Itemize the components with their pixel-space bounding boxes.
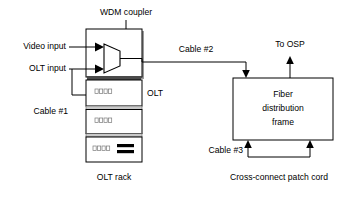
cable-1-route bbox=[72, 69, 86, 95]
shelf-1-port bbox=[100, 89, 103, 94]
rack-top-bar bbox=[87, 76, 141, 80]
shelf-1-port bbox=[104, 89, 107, 94]
fdf-line-1: Fiber bbox=[273, 89, 293, 99]
olt-label: OLT bbox=[147, 88, 164, 98]
shelf-2-port bbox=[104, 118, 107, 123]
cable-1-label: Cable #1 bbox=[34, 106, 69, 116]
shelf-3-black-bar bbox=[117, 150, 134, 153]
rack-shelf-2 bbox=[86, 110, 142, 134]
diagram-canvas: WDM coupler Video input OLT input Cable … bbox=[0, 0, 341, 199]
fdf-line-3: frame bbox=[272, 117, 294, 127]
arrow-down-icon bbox=[242, 70, 250, 78]
video-input-label: Video input bbox=[23, 41, 66, 51]
fdf-line-2: distribution bbox=[262, 103, 304, 113]
olt-rack-label: OLT rack bbox=[97, 172, 132, 182]
shelf-2-port bbox=[109, 118, 112, 123]
cross-connect-patch-cord-label: Cross-connect patch cord bbox=[230, 172, 328, 182]
network-diagram: WDM coupler Video input OLT input Cable … bbox=[0, 0, 341, 199]
shelf-3-port bbox=[98, 146, 101, 151]
shelf-3-port bbox=[107, 146, 110, 151]
to-osp-label: To OSP bbox=[275, 39, 305, 49]
rack-separator-bar bbox=[86, 134, 142, 138]
shelf-3-black-bar bbox=[117, 144, 134, 147]
rack-separator-bar bbox=[86, 106, 142, 110]
arrow-up-icon bbox=[244, 140, 252, 148]
rack-shelf-1 bbox=[86, 80, 142, 106]
shelf-1-port bbox=[95, 89, 98, 94]
arrow-up-icon bbox=[286, 56, 294, 64]
shelf-2-port bbox=[95, 118, 98, 123]
cross-connect-patch-cord-route bbox=[248, 146, 310, 157]
cable-3-label: Cable #3 bbox=[209, 145, 244, 155]
cable-2-label: Cable #2 bbox=[179, 44, 214, 54]
shelf-3-port bbox=[93, 146, 96, 151]
arrow-up-icon bbox=[306, 140, 314, 148]
shelf-3-port bbox=[102, 146, 105, 151]
olt-input-label: OLT input bbox=[29, 63, 67, 73]
shelf-1-port bbox=[109, 89, 112, 94]
shelf-2-port bbox=[100, 118, 103, 123]
wdm-coupler-label: WDM coupler bbox=[100, 7, 152, 17]
